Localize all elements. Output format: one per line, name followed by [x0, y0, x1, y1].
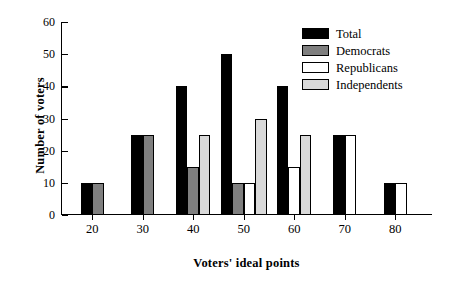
bar-republicans-70 [345, 135, 357, 215]
y-tick-label: 40 [43, 79, 55, 94]
bar-total-60 [277, 86, 289, 215]
bar-total-70 [333, 135, 345, 215]
x-tick-label: 70 [338, 222, 351, 237]
y-tick-label: 50 [43, 47, 55, 62]
x-tick-mark [345, 215, 346, 220]
bar-republicans-80 [395, 183, 407, 215]
legend-label: Republicans [336, 62, 398, 75]
y-tick-mark [62, 22, 68, 23]
y-tick-mark [62, 54, 68, 55]
y-tick-mark [62, 151, 68, 152]
legend-label: Total [336, 28, 362, 41]
x-tick-label: 40 [187, 222, 200, 237]
x-tick-mark [294, 215, 295, 220]
bar-republicans-60 [288, 167, 300, 215]
bar-total-40 [176, 86, 188, 215]
bar-democrats-50 [232, 183, 244, 215]
x-tick-label: 80 [389, 222, 402, 237]
x-tick-mark [244, 215, 245, 220]
legend-item-republicans: Republicans [302, 60, 403, 76]
legend-swatch-democrats [302, 45, 329, 56]
legend-label: Democrats [336, 45, 390, 58]
bar-total-20 [81, 183, 93, 215]
x-tick-label: 20 [86, 222, 99, 237]
y-tick-mark [62, 215, 68, 216]
x-tick-label: 60 [288, 222, 301, 237]
legend-swatch-independents [302, 79, 329, 90]
y-tick-label: 0 [49, 208, 55, 223]
bar-democrats-20 [92, 183, 104, 215]
x-tick-mark [143, 215, 144, 220]
x-tick-mark [92, 215, 93, 220]
bar-total-80 [384, 183, 396, 215]
bar-independents-50 [255, 119, 267, 216]
bar-independents-60 [300, 135, 312, 215]
bar-republicans-50 [244, 183, 256, 215]
x-tick-mark [395, 215, 396, 220]
y-tick-label: 60 [43, 15, 55, 30]
legend-item-total: Total [302, 26, 403, 42]
legend-swatch-total [302, 28, 329, 39]
bar-chart: Number of voters 0102030405060 203040506… [0, 0, 450, 285]
bar-total-30 [131, 135, 143, 215]
legend-item-democrats: Democrats [302, 43, 403, 59]
x-tick-mark [193, 215, 194, 220]
legend-item-independents: Independents [302, 77, 403, 93]
y-tick-mark [62, 86, 68, 87]
bar-democrats-30 [143, 135, 155, 215]
x-tick-label: 30 [137, 222, 150, 237]
y-tick-label: 10 [43, 175, 55, 190]
y-tick-mark [62, 119, 68, 120]
x-axis-label: Voters' ideal points [61, 256, 432, 271]
chart-legend: TotalDemocratsRepublicansIndependents [302, 26, 403, 94]
bar-total-50 [221, 54, 233, 215]
y-tick-label: 30 [43, 111, 55, 126]
legend-swatch-republicans [302, 62, 329, 73]
bar-democrats-40 [187, 167, 199, 215]
legend-label: Independents [336, 79, 403, 92]
y-tick-label: 20 [43, 143, 55, 158]
bar-independents-40 [199, 135, 211, 215]
y-tick-mark [62, 183, 68, 184]
x-tick-label: 50 [237, 222, 250, 237]
